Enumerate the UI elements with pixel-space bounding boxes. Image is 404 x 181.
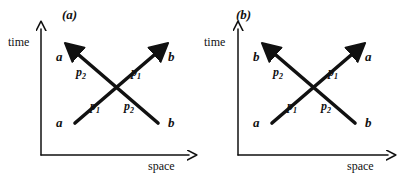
time-axis-label: time [8,36,29,48]
panel-title: (b) [236,8,251,21]
scattering-diagram-figure: (a) time space a b a b p2 p1 p1 p2 [0,0,404,181]
momentum-bottom-left: p1 [287,100,297,112]
momentum-top-right: p1 [131,66,141,78]
panel-a-graphics [0,0,202,181]
momentum-index: 1 [137,72,141,81]
momentum-index: 2 [327,106,331,115]
space-axis-label: space [347,160,374,172]
momentum-index: 1 [293,106,297,115]
momentum-index: 2 [279,72,283,81]
outgoing-particle-top-left: a [56,50,63,63]
panel-b-graphics [202,0,404,181]
momentum-bottom-right: p2 [124,100,134,112]
space-axis-label: space [148,160,175,172]
incoming-particle-bottom-left: a [253,116,260,129]
time-axis-label: time [204,36,225,48]
panel-b: (b) time space b a a b p2 p1 p1 p2 [202,0,404,181]
panel-a: (a) time space a b a b p2 p1 p1 p2 [0,0,202,181]
incoming-particle-bottom-left: a [56,116,63,129]
panel-title: (a) [62,8,77,21]
momentum-top-left: p2 [273,66,283,78]
momentum-bottom-left: p1 [90,100,100,112]
outgoing-particle-top-right: b [168,50,175,63]
outgoing-particle-top-left: b [253,50,260,63]
momentum-bottom-right: p2 [321,100,331,112]
outgoing-particle-top-right: a [365,50,372,63]
incoming-particle-bottom-right: b [168,116,175,129]
momentum-index: 2 [82,72,86,81]
momentum-index: 1 [96,106,100,115]
incoming-particle-bottom-right: b [365,116,372,129]
momentum-index: 2 [130,106,134,115]
momentum-top-left: p2 [76,66,86,78]
momentum-top-right: p1 [328,66,338,78]
momentum-index: 1 [334,72,338,81]
